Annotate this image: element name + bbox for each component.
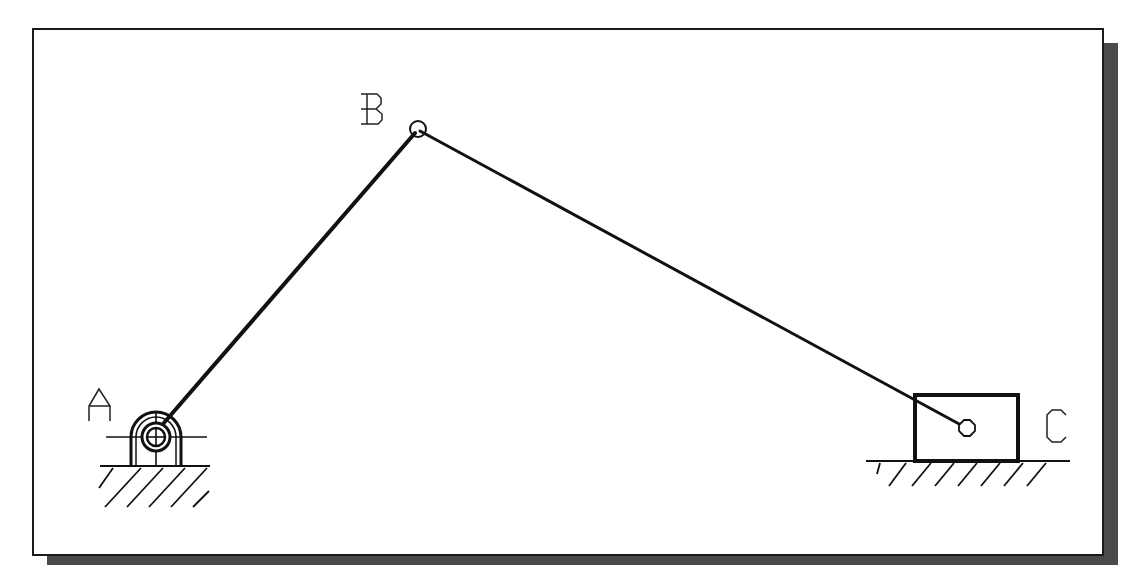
joint-a[interactable] — [142, 423, 170, 451]
joint-c[interactable] — [959, 420, 975, 436]
mechanism-diagram — [0, 0, 1142, 588]
